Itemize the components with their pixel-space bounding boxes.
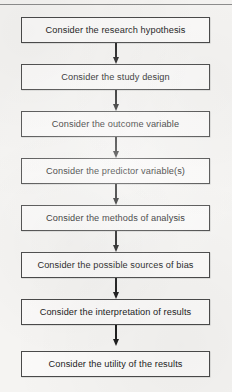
down-arrow-icon-7 [115,325,117,346]
arrow-head [113,198,119,205]
flow-node-step-7[interactable]: Consider the interpretation of results [21,299,210,325]
arrow-head [113,292,119,299]
flow-node-step-5[interactable]: Consider the methods of analysis [21,205,210,231]
flow-node-label: Consider the outcome variable [52,119,179,129]
flowchart: Consider the research hypothesis Conside… [0,0,232,392]
flow-node-step-4[interactable]: Consider the predictor variable(s) [21,158,210,184]
flow-node-step-1[interactable]: Consider the research hypothesis [21,17,210,43]
flow-node-label: Consider the research hypothesis [46,25,186,35]
down-arrow-icon-5 [115,231,117,252]
flow-node-step-3[interactable]: Consider the outcome variable [21,111,210,137]
flow-node-label: Consider the possible sources of bias [37,260,193,270]
arrow-head [113,339,119,346]
flow-node-label: Consider the predictor variable(s) [46,166,185,176]
flow-node-label: Consider the utility of the results [49,359,183,369]
arrow-head [113,104,119,111]
flow-node-label: Consider the interpretation of results [40,307,192,317]
flow-node-step-6[interactable]: Consider the possible sources of bias [21,252,210,278]
flow-node-label: Consider the study design [61,72,170,82]
flow-node-label: Consider the methods of analysis [46,213,185,223]
figure-page: Consider the research hypothesis Conside… [0,0,232,392]
flow-node-step-2[interactable]: Consider the study design [21,64,210,90]
arrow-head [113,151,119,158]
down-arrow-icon-4 [115,184,117,205]
arrow-head [113,57,119,64]
down-arrow-icon-2 [115,90,117,111]
flow-node-step-8[interactable]: Consider the utility of the results [21,351,210,377]
down-arrow-icon-1 [115,43,117,64]
down-arrow-icon-6 [115,278,117,299]
down-arrow-icon-3 [115,137,117,158]
arrow-head [113,245,119,252]
